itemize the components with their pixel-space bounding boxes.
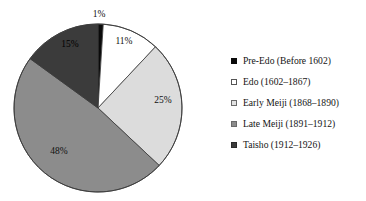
legend-swatch-icon bbox=[231, 79, 237, 85]
pie-slice-label: 11% bbox=[115, 37, 132, 47]
pie-slice-label: 15% bbox=[61, 40, 78, 50]
legend-swatch-icon bbox=[231, 100, 237, 106]
legend-item-label: Edo (1602–1867) bbox=[243, 77, 310, 87]
legend-item[interactable]: Early Meiji (1868–1890) bbox=[231, 92, 366, 113]
chart-legend: Pre-Edo (Before 1602)Edo (1602–1867)Earl… bbox=[231, 50, 366, 155]
pie-slice-label: 1% bbox=[93, 10, 106, 20]
pie-svg bbox=[0, 0, 210, 201]
pie-chart-figure: 1%11%25%48%15% Pre-Edo (Before 1602)Edo … bbox=[0, 0, 366, 201]
legend-item-label: Early Meiji (1868–1890) bbox=[243, 98, 339, 108]
legend-item-label: Pre-Edo (Before 1602) bbox=[243, 56, 331, 66]
legend-item[interactable]: Edo (1602–1867) bbox=[231, 71, 366, 92]
legend-swatch-icon bbox=[231, 142, 237, 148]
pie-slice-label: 25% bbox=[154, 96, 171, 106]
pie-slices bbox=[14, 24, 182, 192]
legend-item-label: Taisho (1912–1926) bbox=[243, 140, 320, 150]
pie-slice-label: 48% bbox=[50, 147, 67, 157]
legend-item[interactable]: Pre-Edo (Before 1602) bbox=[231, 50, 366, 71]
legend-item[interactable]: Taisho (1912–1926) bbox=[231, 134, 366, 155]
legend-swatch-icon bbox=[231, 121, 237, 127]
legend-swatch-icon bbox=[231, 58, 237, 64]
legend-item-label: Late Meiji (1891–1912) bbox=[243, 119, 335, 129]
legend-item[interactable]: Late Meiji (1891–1912) bbox=[231, 113, 366, 134]
pie-plot-area: 1%11%25%48%15% bbox=[0, 0, 210, 201]
